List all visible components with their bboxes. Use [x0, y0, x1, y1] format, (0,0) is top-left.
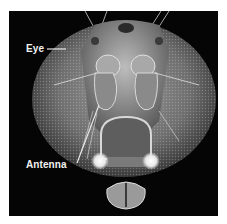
eye-label: Eye — [26, 44, 44, 54]
proboscis — [91, 117, 160, 209]
sem-micrograph: Eye Antenna — [9, 11, 218, 216]
fly-head-illustration — [9, 11, 218, 216]
antenna-label: Antenna — [26, 160, 67, 170]
